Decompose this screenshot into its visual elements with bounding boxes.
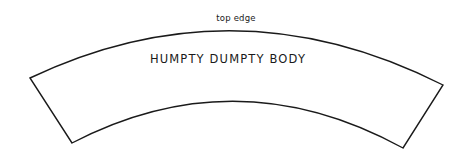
piece-name-label: HUMPTY DUMPTY BODY bbox=[0, 52, 462, 66]
pattern-drawing bbox=[0, 0, 468, 159]
pattern-sheet: top edge HUMPTY DUMPTY BODY bbox=[0, 0, 468, 159]
top-edge-label: top edge bbox=[2, 13, 468, 23]
pattern-piece-outline[interactable] bbox=[30, 31, 443, 148]
